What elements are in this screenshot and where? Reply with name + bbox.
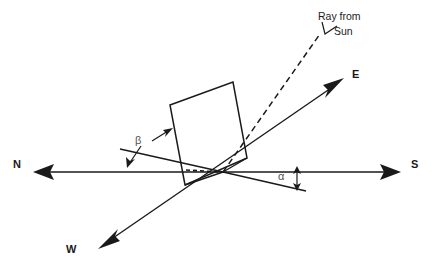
diagram-canvas: N S E W β α Ray from Sun [0,0,433,280]
compass-label-south: S [411,158,418,170]
alpha-azimuth-reference-line [223,172,306,191]
compass-label-west: W [66,243,76,255]
angle-label-beta: β [135,134,141,146]
east-west-axis-group [98,78,344,249]
solar-panel-outline [170,82,247,185]
west-arrowhead-icon [98,229,120,249]
ray-from-sun-label-line2: Sun [334,26,353,38]
beta-tilt-reference-line [120,149,223,172]
solar-panel-group [170,82,247,185]
alpha-angle-group [223,166,306,191]
east-west-axis-line [113,86,334,238]
diagram-vector-layer [0,0,433,280]
compass-label-north: N [13,158,21,170]
compass-label-east: E [352,68,359,80]
east-arrowhead-icon [323,78,344,98]
ray-from-sun-label-line1: Ray from [318,11,361,23]
panel-bottom-corner-to-origin-line [185,172,223,185]
beta-pointer-down-arrowhead-icon [126,157,135,168]
angle-label-alpha: α [278,170,284,182]
